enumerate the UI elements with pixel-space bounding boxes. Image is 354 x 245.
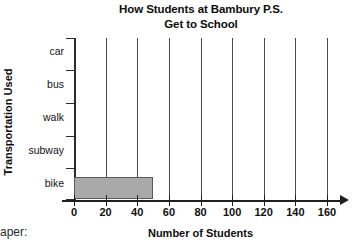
x-axis-line: [62, 200, 344, 202]
bar-bike: [74, 177, 153, 198]
x-axis-tick-label-80: 80: [184, 206, 218, 218]
y-axis-label-car: car: [16, 46, 64, 57]
gridline-160: [327, 38, 328, 200]
chart-title-line-2: Get to School: [74, 17, 328, 32]
x-axis-tick: [295, 195, 296, 206]
y-axis-label-bus: bus: [16, 79, 64, 90]
x-axis-tick-label-20: 20: [89, 206, 123, 218]
x-axis-tick-label-140: 140: [278, 206, 312, 218]
chart-title: How Students at Bambury P.S. Get to Scho…: [74, 2, 328, 32]
y-axis-category-labels: car bus walk subway bike: [16, 38, 64, 200]
x-axis-tick: [232, 195, 233, 206]
x-axis-tick: [106, 195, 107, 206]
y-axis-title-text: Transportation Used: [2, 69, 14, 176]
y-axis-tick: [66, 70, 74, 71]
x-axis-tick: [327, 195, 328, 206]
x-axis-tick-label-160: 160: [310, 206, 344, 218]
x-axis-tick: [74, 195, 75, 206]
x-axis-tick-label-120: 120: [247, 206, 281, 218]
chart-title-line-1: How Students at Bambury P.S.: [119, 3, 283, 15]
x-axis-tick-label-40: 40: [120, 206, 154, 218]
x-axis-tick: [137, 195, 138, 206]
bar-chart: How Students at Bambury P.S. Get to Scho…: [0, 0, 354, 245]
bar-series: [74, 38, 327, 200]
y-axis-ticks: [66, 38, 74, 200]
x-axis-tick: [264, 195, 265, 206]
y-axis-label-walk: walk: [16, 112, 64, 123]
x-axis-arrow-icon: [340, 195, 349, 205]
x-axis-tick-label-60: 60: [152, 206, 186, 218]
clipped-caption: aper:: [0, 225, 27, 239]
y-axis-tick: [66, 168, 74, 169]
y-axis-tick: [66, 136, 74, 137]
x-axis-tick-label-0: 0: [57, 206, 91, 218]
x-axis-tick: [169, 195, 170, 206]
y-axis-tick: [66, 38, 74, 39]
y-axis-label-bike: bike: [16, 178, 64, 189]
x-axis-title: Number of Students: [74, 227, 327, 239]
y-axis-title: Transportation Used: [0, 38, 16, 206]
y-axis-tick: [66, 103, 74, 104]
x-axis-tick: [201, 195, 202, 206]
x-axis-tick-label-100: 100: [215, 206, 249, 218]
y-axis-label-subway: subway: [16, 145, 64, 156]
